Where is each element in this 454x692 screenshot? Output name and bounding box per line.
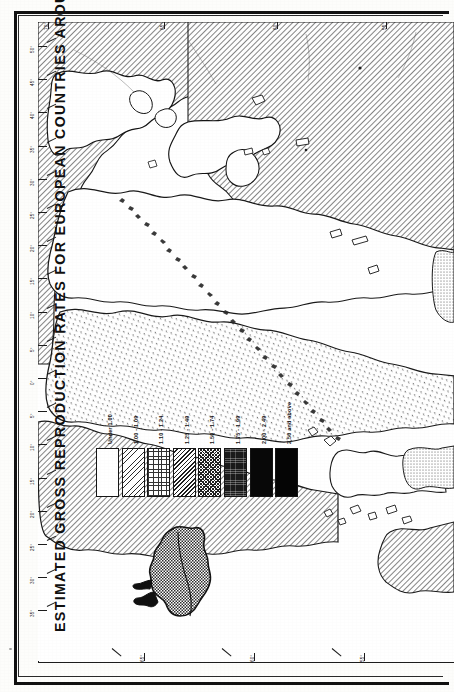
graticule-tick <box>144 653 145 661</box>
legend-swatch <box>198 448 221 497</box>
graticule-label: 5° <box>30 413 35 418</box>
legend-class-4: 1.25 - 1.49 <box>173 380 195 490</box>
graticule-label: 5° <box>30 347 35 352</box>
graticule-label: 35° <box>30 145 35 153</box>
graticule-tick <box>38 444 47 445</box>
legend-class-7: 2.00 - 2.49 <box>250 380 272 490</box>
graticule-label: 20° <box>30 510 35 518</box>
legend-class-1: Under 1.00 <box>96 380 118 490</box>
ireland-inset <box>132 512 232 637</box>
legend-label: 2.00 - 2.49 <box>261 415 267 444</box>
legend-class-5: 1.50 - 1.74 <box>198 380 220 490</box>
legend-class-3: 1.10 - 1.24 <box>147 380 169 490</box>
graticule-tick <box>48 22 49 29</box>
graticule-tick <box>38 146 47 147</box>
map-face <box>38 22 454 661</box>
graticule-tick <box>254 653 255 661</box>
graticule-tick <box>164 22 165 29</box>
graticule-tick <box>38 46 47 47</box>
graticule-tick <box>38 511 47 512</box>
legend-swatch <box>122 448 145 497</box>
scan-speck <box>449 120 451 122</box>
graticule-label: 20° <box>30 245 35 253</box>
legend-class-8: 2.50 and above <box>275 380 297 490</box>
graticule-tick <box>38 312 47 313</box>
graticule-tick <box>38 112 47 113</box>
graticule-tick <box>38 179 47 180</box>
graticule-label: 10° <box>30 311 35 319</box>
graticule-label: 25° <box>30 211 35 219</box>
graticule-tick <box>386 22 387 29</box>
graticule-tick <box>38 378 47 379</box>
graticule-tick <box>38 478 47 479</box>
graticule-tick <box>38 411 47 412</box>
map-legend: Under 1.001.00 - 1.091.10 - 1.241.25 - 1… <box>96 380 301 490</box>
legend-label: 1.25 - 1.49 <box>184 415 190 444</box>
graticule-label: 15° <box>30 477 35 485</box>
graticule-tick <box>364 653 365 661</box>
legend-swatch <box>173 448 196 497</box>
scanned-map-page: Under 1.001.00 - 1.091.10 - 1.241.25 - 1… <box>0 0 454 692</box>
graticule-tick <box>38 345 47 346</box>
graticule-tick <box>38 212 47 213</box>
graticule-tick <box>38 610 47 611</box>
graticule-tick <box>38 79 47 80</box>
graticule-tick <box>38 278 47 279</box>
graticule-label: 45° <box>30 79 35 87</box>
graticule-label: 30° <box>30 577 35 585</box>
page-title: ESTIMATED GROSS REPRODUCTION RATES FOR E… <box>52 0 68 632</box>
graticule-label: 10° <box>30 444 35 452</box>
legend-swatch <box>96 448 119 497</box>
legend-swatch <box>275 448 298 497</box>
graticule-label: 35° <box>30 610 35 618</box>
legend-label: 1.75 - 1.99 <box>235 415 241 444</box>
legend-swatch <box>147 448 170 497</box>
graticule-tick <box>277 22 278 29</box>
legend-label: Under 1.00 <box>107 414 113 444</box>
graticule-label: 50° <box>30 45 35 53</box>
legend-label: 1.00 - 1.09 <box>133 415 139 444</box>
graticule-label: 0° <box>30 380 35 385</box>
legend-class-2: 1.00 - 1.09 <box>122 380 144 490</box>
graticule-label: 25° <box>30 543 35 551</box>
legend-swatch <box>250 448 273 497</box>
legend-label: 1.10 - 1.24 <box>158 415 164 444</box>
graticule-label: 30° <box>30 178 35 186</box>
graticule-tick <box>38 245 47 246</box>
map-artwork <box>38 22 454 661</box>
scan-speck <box>9 648 12 650</box>
graticule-label: 15° <box>30 278 35 286</box>
legend-label: 1.50 - 1.74 <box>209 415 215 444</box>
legend-swatch <box>224 448 247 497</box>
legend-class-6: 1.75 - 1.99 <box>224 380 246 490</box>
legend-label: 2.50 and above <box>286 402 292 444</box>
graticule-label: 40° <box>30 112 35 120</box>
graticule-tick <box>38 544 47 545</box>
graticule-tick <box>38 577 47 578</box>
